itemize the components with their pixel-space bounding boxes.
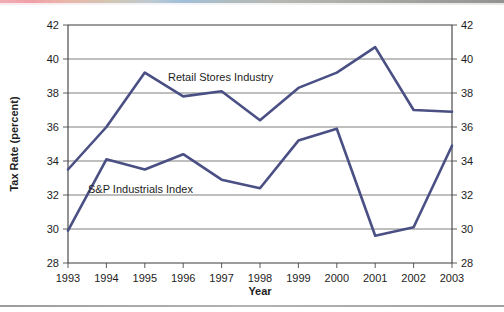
series-label-sp-industrials-index: S&P Industrials Index [88,183,193,195]
y-tick-label-right-36: 36 [461,121,473,133]
y-tick-label-left-30: 30 [47,223,59,235]
chart-page: 2830323436384042 2830323436384042 199319… [0,0,504,312]
left-y-tick-labels: 2830323436384042 [47,19,59,269]
series-line-retail-stores-industry [68,47,452,169]
tax-rate-line-chart: 2830323436384042 2830323436384042 199319… [0,5,504,305]
y-tick-label-left-36: 36 [47,121,59,133]
x-tick-label-1997: 1997 [209,272,233,284]
y-tick-label-left-34: 34 [47,155,59,167]
y-tick-label-right-28: 28 [461,257,473,269]
y-tick-label-right-42: 42 [461,19,473,31]
y-tick-label-left-38: 38 [47,87,59,99]
x-tick-label-1999: 1999 [286,272,310,284]
x-tick-label-2000: 2000 [325,272,349,284]
y-tick-label-right-34: 34 [461,155,473,167]
x-axis-title: Year [248,285,272,297]
scan-edge-bottom-margin [0,307,504,312]
y-tick-label-left-28: 28 [47,257,59,269]
x-tick-label-1996: 1996 [171,272,195,284]
y-tick-label-right-38: 38 [461,87,473,99]
y-tickmarks [63,25,457,263]
x-tick-label-1994: 1994 [94,272,118,284]
y-tick-label-right-30: 30 [461,223,473,235]
x-tick-labels: 1993199419951996199719981999200020012002… [56,272,464,284]
x-tick-label-2001: 2001 [363,272,387,284]
x-tick-label-1998: 1998 [248,272,272,284]
x-tickmarks [68,263,452,268]
chart-svg: 2830323436384042 2830323436384042 199319… [0,5,504,305]
y-axis-title: Tax Rate (percent) [8,96,20,191]
right-y-tick-labels: 2830323436384042 [461,19,473,269]
gridlines [68,59,452,229]
y-tick-label-right-40: 40 [461,53,473,65]
series-label-retail-stores-industry: Retail Stores Industry [168,71,274,83]
x-tick-label-1995: 1995 [133,272,157,284]
plot-frame [68,25,452,263]
y-tick-label-left-42: 42 [47,19,59,31]
x-tick-label-2002: 2002 [401,272,425,284]
x-tick-label-1993: 1993 [56,272,80,284]
y-tick-label-left-32: 32 [47,189,59,201]
y-tick-label-left-40: 40 [47,53,59,65]
y-tick-label-right-32: 32 [461,189,473,201]
x-tick-label-2003: 2003 [440,272,464,284]
